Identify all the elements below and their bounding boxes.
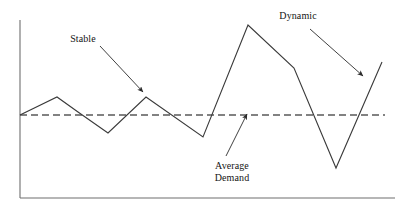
dynamic-annotation-label: Dynamic <box>279 10 316 22</box>
chart-canvas <box>0 0 405 210</box>
demand-line <box>20 25 382 168</box>
dynamic-annotation-text: Dynamic <box>279 10 316 22</box>
demand-series-group <box>20 25 382 168</box>
stable-annotation-text: Stable <box>70 33 96 45</box>
average-demand-annotation-label: Average Demand <box>215 160 249 183</box>
average-demand-annotation-text-line2: Demand <box>215 172 249 184</box>
average-demand-arrow <box>226 114 247 156</box>
demand-pattern-figure: Stable Dynamic Average Demand <box>0 0 405 210</box>
dynamic-arrow <box>310 29 363 76</box>
axes-group <box>20 20 395 198</box>
average-demand-annotation-text-line1: Average <box>215 160 249 172</box>
stable-arrow <box>100 46 143 92</box>
stable-annotation-label: Stable <box>70 33 96 45</box>
